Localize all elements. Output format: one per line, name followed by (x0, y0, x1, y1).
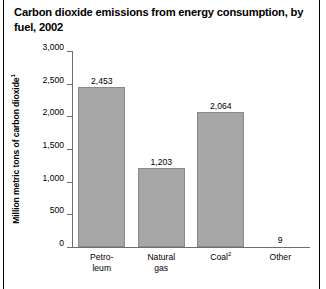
x-axis-line (72, 247, 310, 248)
y-tick-mark (67, 116, 72, 117)
y-tick-label: 2,000 (42, 112, 64, 113)
bar-value-label: 2,453 (62, 76, 142, 86)
y-tick-label: 500 (50, 210, 64, 211)
bar-value-label: 2,064 (181, 101, 261, 111)
x-category-label: Other (240, 252, 320, 263)
x-category-text: Other (270, 252, 292, 262)
x-category-text: Petro- leum (90, 252, 113, 273)
chart-figure: Carbon dioxide emissions from energy con… (0, 0, 326, 289)
bar-value-label: 1,203 (121, 157, 201, 167)
y-tick-label: 1,500 (42, 145, 64, 146)
y-tick-mark (67, 214, 72, 215)
bar-value-label: 9 (240, 235, 320, 245)
y-tick-label: 1,000 (42, 178, 64, 179)
y-axis-title: Million metric tons of carbon dioxide1 (11, 74, 21, 223)
bar (197, 112, 244, 247)
x-category-text: Natural gas (147, 252, 175, 273)
bar (138, 168, 185, 247)
y-axis-title-footnote: 1 (10, 74, 16, 77)
x-category-text: Coal (210, 252, 228, 262)
y-tick-mark (67, 51, 72, 52)
y-tick-mark (67, 247, 72, 248)
bar (78, 87, 125, 247)
y-tick-mark (67, 182, 72, 183)
x-category-footnote: 2 (228, 251, 231, 257)
y-tick-label: 3,000 (42, 47, 64, 48)
y-axis-title-text: Million metric tons of carbon dioxide (11, 78, 21, 224)
y-tick-label: 0 (59, 243, 64, 244)
y-tick-mark (67, 149, 72, 150)
plot-area: Million metric tons of carbon dioxide1 3… (0, 0, 326, 289)
